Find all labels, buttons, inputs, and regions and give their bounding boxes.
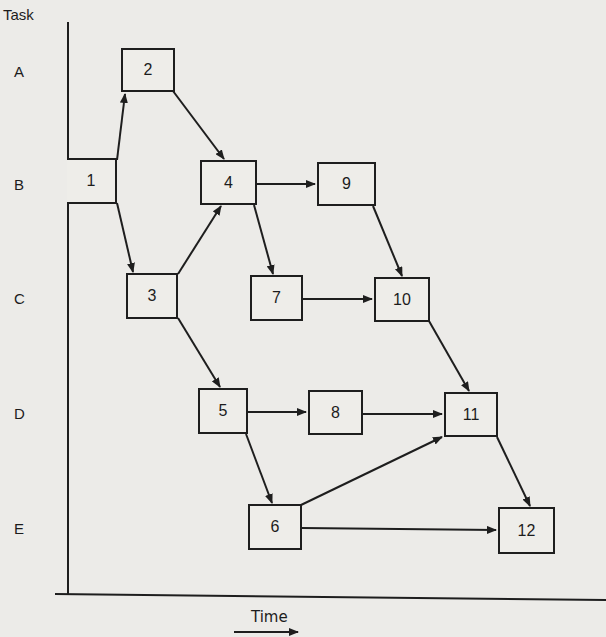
task-node-6: 6 — [248, 504, 302, 550]
task-node-9: 9 — [317, 162, 376, 206]
arrow-5-to-6 — [246, 434, 272, 503]
row-label-e: E — [14, 521, 24, 536]
arrow-11-to-12 — [497, 437, 530, 506]
task-node-5: 5 — [198, 388, 248, 434]
arrow-1-to-3 — [117, 203, 133, 272]
task-node-label: 2 — [144, 61, 153, 79]
task-node-label: 7 — [272, 289, 281, 307]
task-node-12: 12 — [498, 507, 555, 554]
task-node-label: 6 — [271, 518, 280, 536]
arrow-3-to-5 — [178, 318, 220, 387]
task-node-label: 9 — [342, 175, 351, 193]
task-node-label: 10 — [393, 291, 411, 309]
task-node-label: 3 — [148, 287, 157, 305]
arrow-4-to-7 — [254, 205, 273, 274]
arrow-6-to-12 — [302, 528, 496, 530]
task-node-1: 1 — [67, 158, 117, 204]
row-label-b: B — [14, 177, 24, 192]
task-network-diagram: Task Time A B C D E 123456789101112 — [0, 0, 606, 637]
arrow-1-to-2 — [117, 94, 125, 160]
row-label-c: C — [14, 291, 25, 306]
task-node-label: 8 — [331, 404, 340, 422]
task-node-label: 4 — [224, 174, 233, 192]
task-node-4: 4 — [200, 160, 257, 205]
task-node-7: 7 — [250, 275, 303, 321]
task-node-3: 3 — [126, 273, 178, 319]
task-node-label: 11 — [463, 406, 480, 424]
task-node-label: 12 — [518, 522, 536, 540]
y-axis-title: Task — [3, 7, 34, 22]
row-label-a: A — [14, 64, 24, 79]
dependency-arrows — [117, 91, 530, 530]
arrow-3-to-4 — [178, 206, 221, 274]
x-axis-line — [55, 594, 606, 600]
task-node-label: 1 — [87, 172, 96, 190]
task-node-11: 11 — [444, 392, 498, 437]
task-node-10: 10 — [374, 277, 430, 322]
x-axis-title: Time — [251, 610, 288, 625]
arrow-2-to-4 — [173, 91, 224, 159]
task-node-label: 5 — [219, 402, 228, 420]
task-node-2: 2 — [121, 48, 175, 92]
row-label-d: D — [14, 406, 25, 421]
arrow-6-to-11 — [301, 437, 442, 505]
task-node-8: 8 — [308, 390, 363, 435]
arrow-9-to-10 — [373, 206, 402, 276]
arrow-10-to-11 — [429, 321, 469, 391]
